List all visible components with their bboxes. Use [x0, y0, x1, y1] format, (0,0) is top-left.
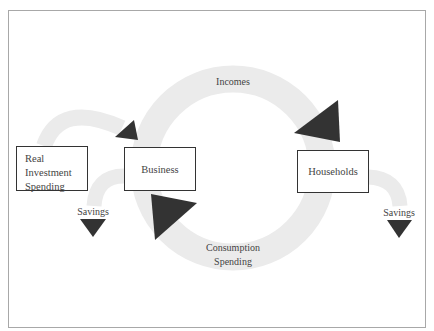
investment-flow-arc — [44, 117, 122, 146]
real-investment-line-3: Spending — [25, 180, 87, 194]
households-label: Households — [308, 166, 358, 177]
real-investment-spending-node: Real Investment Spending — [16, 146, 88, 191]
consumption-label: Consumption — [193, 242, 273, 253]
incomes-label: Incomes — [203, 76, 263, 87]
business-node: Business — [124, 147, 196, 191]
real-investment-line-1: Real — [25, 152, 87, 166]
consumption-spending-label: Spending — [193, 256, 273, 267]
savings-left-label: Savings — [73, 206, 113, 217]
savings-right-flow-arc — [368, 177, 400, 206]
real-investment-line-2: Investment — [25, 166, 87, 180]
savings-right-arrow-icon — [387, 220, 412, 238]
households-node: Households — [297, 150, 369, 193]
savings-right-label: Savings — [379, 207, 419, 218]
savings-left-arrow-icon — [80, 219, 106, 237]
business-label: Business — [141, 164, 178, 175]
savings-left-flow-arc — [94, 176, 124, 206]
